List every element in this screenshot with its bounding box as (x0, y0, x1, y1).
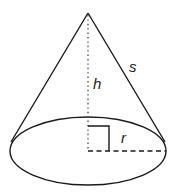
cone-left-side (11, 13, 88, 142)
right-angle-marker (88, 126, 109, 151)
cone-diagram: s h r (0, 0, 175, 195)
radius-label: r (121, 129, 127, 146)
height-label: h (93, 75, 101, 92)
slant-height-label: s (129, 58, 137, 75)
